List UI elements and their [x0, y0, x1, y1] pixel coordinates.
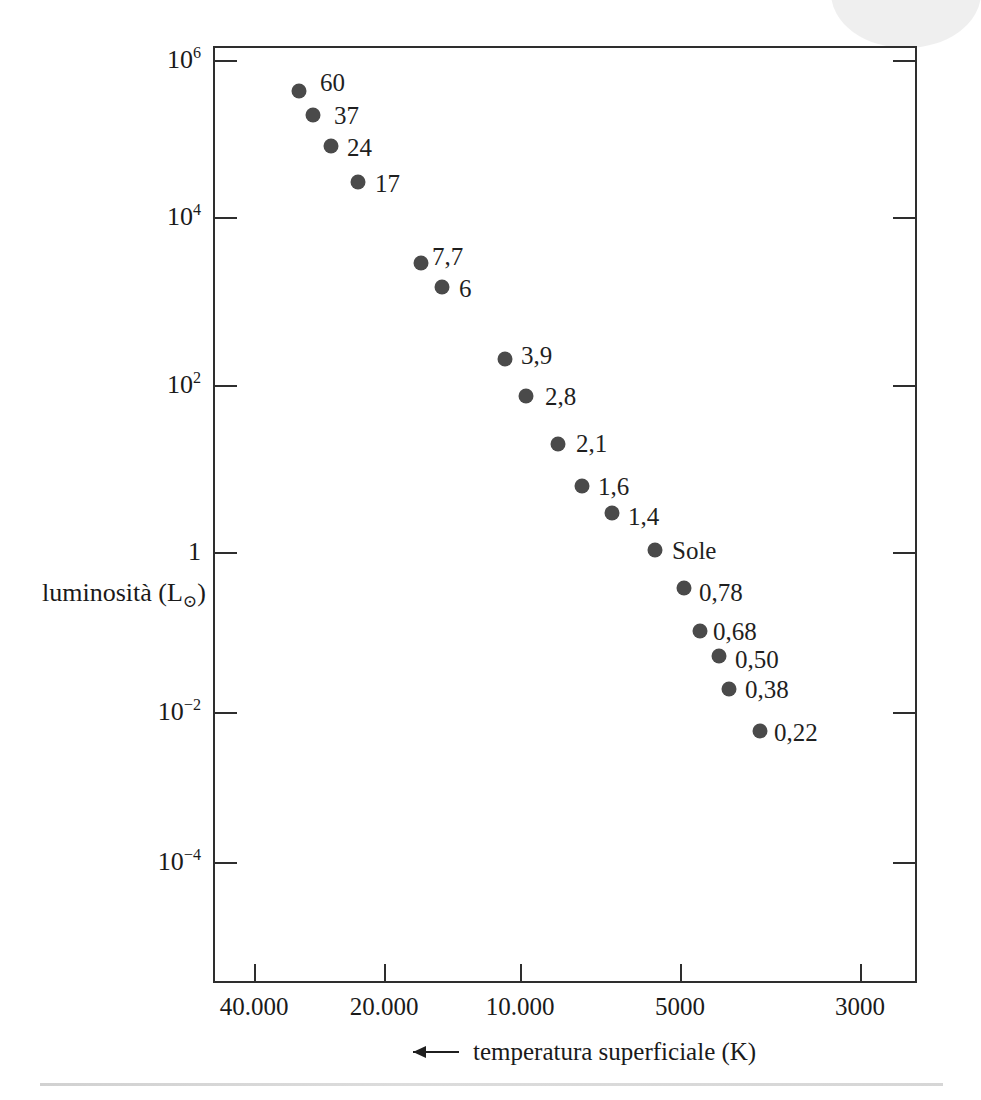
plot-frame: 106104102110−210−4 40.00020.00010.000500… [213, 46, 917, 983]
y-axis-tick-right [893, 862, 915, 864]
data-point-label: 0,78 [699, 580, 743, 605]
x-axis-tick [860, 964, 862, 981]
x-axis-tick-label: 20.000 [350, 994, 419, 1019]
data-point [677, 581, 692, 596]
data-point-label: 3,9 [521, 343, 552, 368]
data-point-label: 0,50 [735, 647, 779, 672]
data-point-label: 7,7 [432, 244, 463, 269]
data-point-label: 1,4 [628, 504, 659, 529]
data-point-label: 0,68 [713, 619, 757, 644]
data-point [435, 280, 450, 295]
y-axis-title: luminosità (L⊙) [42, 578, 206, 608]
x-axis-tick [384, 964, 386, 981]
y-axis-tick [215, 385, 237, 387]
y-axis-tick [215, 552, 237, 554]
x-axis-tick [520, 964, 522, 981]
data-point [722, 682, 737, 697]
x-axis-tick-label: 40.000 [220, 994, 289, 1019]
y-axis-tick-right [893, 217, 915, 219]
y-axis-tick [215, 60, 237, 62]
y-axis-tick-right [893, 552, 915, 554]
data-point-label: 17 [375, 171, 400, 196]
data-point [551, 437, 566, 452]
data-point-label: 24 [347, 135, 372, 160]
scan-artifact-page-edge [40, 1083, 943, 1086]
scan-artifact-corner [831, 0, 981, 48]
x-axis-tick-label: 5000 [655, 994, 705, 1019]
data-point [292, 84, 307, 99]
data-point [753, 724, 768, 739]
y-axis-tick-label: 104 [167, 204, 201, 230]
data-point [351, 175, 366, 190]
y-axis-tick [215, 217, 237, 219]
y-axis-title-close: ) [197, 578, 206, 607]
y-axis-tick-right [893, 60, 915, 62]
y-axis-tick [215, 712, 237, 714]
data-point-label: 0,22 [774, 720, 818, 745]
y-axis-tick-label: 106 [167, 47, 201, 73]
y-axis-tick [215, 862, 237, 864]
y-axis-tick-label: 10−2 [158, 699, 201, 725]
data-point [712, 649, 727, 664]
data-point [575, 479, 590, 494]
sun-symbol-icon: ⊙ [183, 592, 197, 611]
data-point-label: 2,8 [545, 384, 576, 409]
data-point-label: 6 [459, 276, 472, 301]
data-point [605, 506, 620, 521]
y-axis-tick-label: 102 [167, 372, 201, 398]
data-point-label: 1,6 [598, 474, 629, 499]
y-axis-tick-label: 10−4 [158, 849, 201, 875]
data-point [498, 352, 513, 367]
x-axis-title: temperatura superficiale (K) [473, 1038, 756, 1066]
x-axis-tick-label: 3000 [835, 994, 885, 1019]
data-point [324, 139, 339, 154]
data-point-label: 60 [320, 70, 345, 95]
data-point-label: 2,1 [576, 431, 607, 456]
data-point-label: 37 [334, 103, 359, 128]
y-axis-title-text: luminosità (L [42, 578, 183, 607]
data-point [648, 543, 663, 558]
data-point-label: Sole [672, 538, 716, 563]
data-point [414, 256, 429, 271]
data-point-label: 0,38 [745, 677, 789, 702]
y-axis-tick-right [893, 712, 915, 714]
data-point [306, 108, 321, 123]
data-point [693, 624, 708, 639]
left-arrow-icon [413, 1042, 459, 1062]
y-axis-tick-right [893, 385, 915, 387]
x-axis-tick [254, 964, 256, 981]
x-axis-title-group: temperatura superficiale (K) [413, 1038, 756, 1066]
x-axis-tick-label: 10.000 [486, 994, 555, 1019]
y-axis-tick-label: 1 [188, 539, 201, 565]
x-axis-tick [680, 964, 682, 981]
data-point [519, 389, 534, 404]
